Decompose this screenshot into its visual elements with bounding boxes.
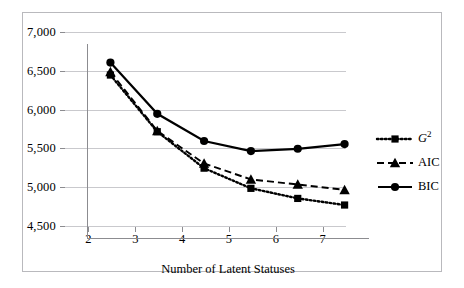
y-tick-mark: [60, 110, 65, 111]
triangle-marker-icon: [375, 151, 415, 175]
gridline: [65, 226, 346, 227]
legend-item-aic[interactable]: AIC: [375, 151, 457, 175]
x-tick-label: 6: [261, 232, 291, 246]
data-point-g2: [247, 185, 254, 192]
gridline: [65, 187, 346, 188]
legend-square-marker-icon: [391, 135, 398, 142]
y-tick-mark: [60, 226, 65, 227]
circle-marker-icon: [375, 175, 415, 199]
gridline: [65, 71, 346, 72]
x-tick-label: 2: [73, 232, 103, 246]
data-point-bic: [153, 110, 161, 118]
legend-circle-marker-icon: [391, 183, 399, 191]
y-tick-mark: [60, 187, 65, 188]
data-point-g2: [154, 128, 161, 135]
data-point-g2: [107, 71, 114, 78]
chart-figure-frame: 7,0006,5006,0005,5005,0004,500 234567 Nu…: [22, 12, 442, 272]
y-tick-label: 7,000: [23, 26, 56, 39]
series-line-g2: [110, 75, 344, 205]
legend-item-g2[interactable]: G2: [375, 127, 457, 151]
data-point-aic: [246, 174, 256, 183]
series-line-bic: [110, 63, 344, 152]
legend-label: AIC: [418, 155, 440, 169]
x-tick-label: 3: [120, 232, 150, 246]
series-bic: [106, 59, 348, 156]
x-axis-title: Number of Latent Statuses: [87, 262, 369, 276]
y-tick-mark: [60, 32, 65, 33]
y-tick-mark: [60, 71, 65, 72]
gridline: [65, 110, 346, 111]
data-point-bic: [106, 59, 114, 67]
y-tick-label: 6,500: [23, 65, 56, 78]
gridline: [65, 148, 346, 149]
y-tick-label: 5,000: [23, 181, 56, 194]
x-tick-label: 4: [167, 232, 197, 246]
square-marker-icon: [375, 127, 415, 151]
x-tick-label: 7: [308, 232, 338, 246]
series-line-aic: [110, 72, 344, 190]
data-point-aic: [152, 126, 162, 135]
legend-label: BIC: [418, 179, 439, 193]
y-tick-mark: [60, 148, 65, 149]
data-point-aic: [339, 185, 349, 194]
y-tick-label: 6,000: [23, 104, 56, 117]
y-tick-label: 4,500: [23, 220, 56, 233]
data-point-bic: [340, 140, 348, 148]
legend-label: G2: [418, 131, 432, 145]
legend-item-bic[interactable]: BIC: [375, 175, 457, 199]
data-point-g2: [341, 201, 348, 208]
data-point-bic: [200, 137, 208, 145]
series-aic: [105, 67, 350, 194]
x-axis-line: [87, 238, 369, 239]
data-point-g2: [294, 195, 301, 202]
y-axis-line: [87, 44, 88, 239]
y-tick-label: 5,500: [23, 142, 56, 155]
x-tick-label: 5: [214, 232, 244, 246]
data-point-g2: [200, 165, 207, 172]
gridline: [65, 32, 346, 33]
data-point-aic: [199, 158, 209, 167]
chart-legend: G2AICBIC: [375, 127, 457, 199]
